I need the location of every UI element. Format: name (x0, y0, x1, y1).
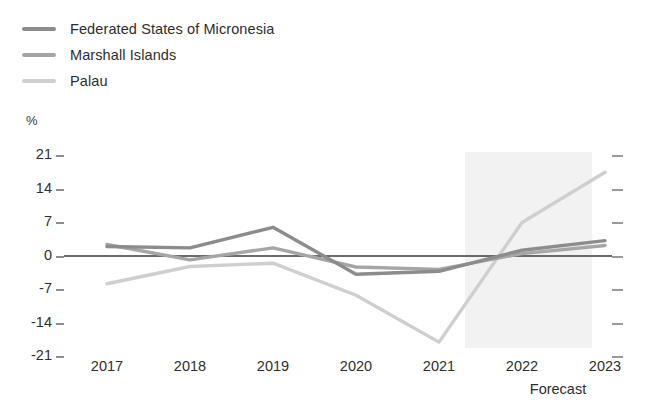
plot-area (0, 0, 652, 418)
chart-container: Federated States of Micronesia Marshall … (0, 0, 652, 418)
